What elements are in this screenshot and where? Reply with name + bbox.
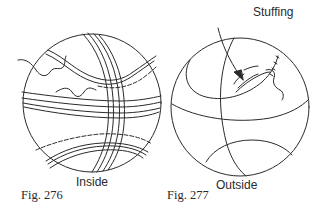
label-stuffing: Stuffing xyxy=(253,5,293,19)
lower-band xyxy=(36,134,152,150)
ball-outside-drawing xyxy=(171,28,309,176)
ball-outline xyxy=(171,38,309,176)
lower-seam xyxy=(206,140,292,162)
ball-inside-drawing xyxy=(18,33,161,172)
middle-band xyxy=(22,92,161,101)
caption-fig-277: Fig. 277 xyxy=(167,188,209,202)
vertical-strap xyxy=(83,34,108,172)
arrow-shaft xyxy=(218,28,240,76)
vertical-seam xyxy=(221,38,247,176)
belt-seam xyxy=(172,100,308,120)
caption-fig-276: Fig. 276 xyxy=(21,188,63,202)
thread-1 xyxy=(18,56,66,76)
thread-2 xyxy=(56,88,96,97)
label-outside: Outside xyxy=(216,178,257,192)
label-inside: Inside xyxy=(76,175,108,189)
thread xyxy=(266,69,283,100)
illustration-canvas xyxy=(0,0,318,203)
